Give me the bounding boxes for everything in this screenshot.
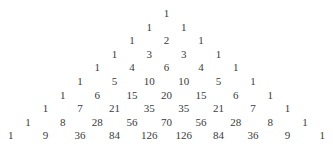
triangle-number: 1	[216, 48, 222, 59]
triangle-number: 1	[25, 116, 31, 127]
triangle-number: 35	[178, 103, 189, 114]
triangle-number: 10	[144, 76, 155, 87]
triangle-number: 10	[178, 76, 189, 87]
triangle-number: 1	[164, 8, 170, 19]
triangle-number: 21	[109, 103, 120, 114]
triangle-number: 1	[146, 21, 152, 32]
triangle-number: 28	[92, 116, 103, 127]
triangle-number: 3	[181, 48, 187, 59]
triangle-number: 7	[250, 103, 256, 114]
triangle-number: 1	[43, 103, 49, 114]
triangle-number: 35	[144, 103, 155, 114]
triangle-number: 126	[176, 130, 193, 141]
triangle-number: 1	[285, 103, 291, 114]
triangle-number: 8	[268, 116, 274, 127]
triangle-number: 1	[129, 35, 135, 46]
triangle-number: 6	[164, 62, 170, 73]
triangle-number: 84	[109, 130, 120, 141]
triangle-number: 1	[302, 116, 308, 127]
triangle-number: 4	[129, 62, 135, 73]
triangle-number: 1	[268, 89, 274, 100]
triangle-number: 36	[248, 130, 259, 141]
triangle-number: 4	[198, 62, 204, 73]
triangle-number: 3	[146, 48, 152, 59]
triangle-number: 21	[213, 103, 224, 114]
triangle-number: 126	[141, 130, 158, 141]
triangle-number: 1	[77, 76, 83, 87]
triangle-number: 1	[319, 130, 325, 141]
triangle-number: 56	[196, 116, 207, 127]
triangle-number: 1	[95, 62, 101, 73]
triangle-number: 15	[196, 89, 207, 100]
triangle-number: 1	[112, 48, 118, 59]
triangle-number: 56	[126, 116, 137, 127]
triangle-number: 9	[285, 130, 291, 141]
triangle-number: 1	[198, 35, 204, 46]
triangle-number: 1	[181, 21, 187, 32]
triangle-number: 9	[43, 130, 49, 141]
triangle-number: 84	[213, 130, 224, 141]
pascals-triangle: 1111211331146411510105116152015611721353…	[0, 0, 333, 150]
triangle-number: 6	[95, 89, 101, 100]
triangle-number: 15	[126, 89, 137, 100]
triangle-number: 36	[75, 130, 86, 141]
triangle-number: 28	[230, 116, 241, 127]
triangle-number: 5	[216, 76, 222, 87]
triangle-number: 8	[60, 116, 66, 127]
triangle-number: 1	[233, 62, 239, 73]
triangle-number: 5	[112, 76, 118, 87]
triangle-number: 1	[60, 89, 66, 100]
triangle-number: 1	[8, 130, 14, 141]
triangle-number: 2	[164, 35, 170, 46]
triangle-number: 70	[161, 116, 172, 127]
triangle-number: 20	[161, 89, 172, 100]
triangle-number: 6	[233, 89, 239, 100]
triangle-number: 1	[250, 76, 256, 87]
triangle-number: 7	[77, 103, 83, 114]
